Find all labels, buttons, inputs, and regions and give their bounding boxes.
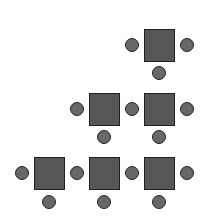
chair	[152, 66, 166, 80]
chair	[125, 38, 139, 52]
chair	[97, 130, 111, 144]
table	[144, 93, 175, 126]
chair	[97, 195, 111, 209]
chair	[180, 102, 194, 116]
chair	[152, 195, 166, 209]
seating-diagram	[0, 0, 207, 217]
table	[144, 157, 175, 190]
table	[144, 29, 175, 62]
chair	[125, 166, 139, 180]
chair	[180, 38, 194, 52]
chair	[15, 166, 29, 180]
chair	[180, 166, 194, 180]
chair	[125, 102, 139, 116]
chair	[42, 195, 56, 209]
chair	[70, 102, 84, 116]
table	[34, 157, 65, 190]
chair	[152, 130, 166, 144]
table	[89, 93, 120, 126]
table	[89, 157, 120, 190]
chair	[70, 166, 84, 180]
